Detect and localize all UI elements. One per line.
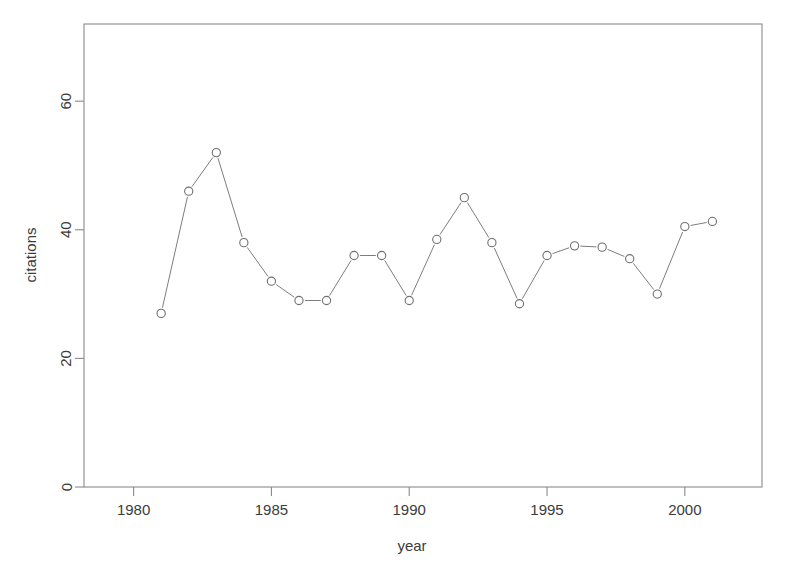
x-tick-label-1980: 1980 <box>117 501 150 518</box>
data-point-1997 <box>598 243 606 251</box>
x-tick-label-1990: 1990 <box>393 501 426 518</box>
data-point-1992 <box>460 194 468 202</box>
y-tick-label-40: 40 <box>58 221 75 238</box>
data-point-1981 <box>157 309 165 317</box>
data-point-1984 <box>240 239 248 247</box>
chart-figure: 19801985199019952000 0204060 year citati… <box>0 0 794 579</box>
data-point-2000 <box>681 222 689 230</box>
data-point-1998 <box>626 255 634 263</box>
x-tick-label-1985: 1985 <box>255 501 288 518</box>
data-point-1986 <box>295 296 303 304</box>
y-tick-label-0: 0 <box>58 483 75 491</box>
data-point-1990 <box>405 296 413 304</box>
data-point-1991 <box>433 235 441 243</box>
line-chart-canvas: 19801985199019952000 0204060 year citati… <box>0 0 794 579</box>
data-point-1995 <box>543 251 551 259</box>
data-point-1987 <box>322 296 330 304</box>
x-tick-label-1995: 1995 <box>530 501 563 518</box>
data-point-1999 <box>653 290 661 298</box>
data-point-1996 <box>570 242 578 250</box>
y-tick-label-20: 20 <box>58 350 75 367</box>
data-point-1983 <box>212 149 220 157</box>
x-tick-label-2000: 2000 <box>668 501 701 518</box>
data-point-1994 <box>515 300 523 308</box>
x-axis-label: year <box>397 537 426 554</box>
data-point-1985 <box>267 277 275 285</box>
data-point-2001 <box>708 217 716 225</box>
y-axis-label: citations <box>22 227 39 282</box>
data-point-1988 <box>350 251 358 259</box>
data-point-1993 <box>488 239 496 247</box>
y-tick-label-60: 60 <box>58 93 75 110</box>
chart-background <box>0 0 794 579</box>
data-point-1989 <box>378 251 386 259</box>
series-segment <box>581 246 596 247</box>
data-point-1982 <box>185 187 193 195</box>
